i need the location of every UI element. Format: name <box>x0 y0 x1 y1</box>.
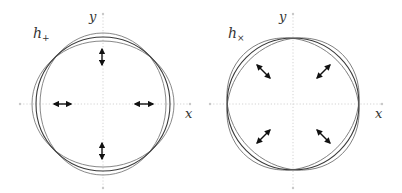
y-axis-label: y <box>88 9 97 24</box>
x-axis-label: x <box>185 106 193 121</box>
polarization-diagram: h+ y x h× y x <box>0 0 402 193</box>
x-axis-end-right <box>381 103 383 105</box>
x-axis-end-left <box>209 103 211 105</box>
y-axis-end-top <box>292 13 294 15</box>
y-axis-label: y <box>278 9 287 24</box>
polarization-label-cross: h× <box>228 25 245 43</box>
arrow-diagonal-bottom-left <box>257 130 270 143</box>
y-axis-end-top <box>102 13 104 15</box>
arrow-diagonal-bottom-right <box>317 130 330 143</box>
y-axis-end-bottom <box>292 187 294 189</box>
panel-plus: h+ y x <box>19 9 193 189</box>
panel-cross: h× y x <box>200 9 387 193</box>
arrow-diagonal-top-left <box>257 65 270 78</box>
x-axis-end-left <box>19 103 21 105</box>
x-axis-label: x <box>375 106 383 121</box>
y-axis-end-bottom <box>102 187 104 189</box>
polarization-label-plus: h+ <box>33 25 50 43</box>
x-axis-end-right <box>189 103 191 105</box>
arrow-diagonal-top-right <box>317 65 330 78</box>
